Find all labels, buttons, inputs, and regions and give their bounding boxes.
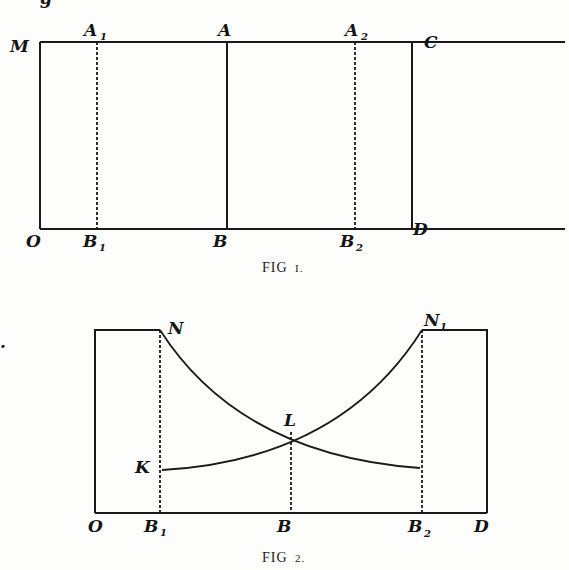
- label-b1-sub: 1: [99, 242, 106, 253]
- label-n1: N: [423, 310, 441, 330]
- label-a2: A: [343, 20, 358, 40]
- label-b1-2-sub: 1: [160, 527, 167, 538]
- label-b: B: [212, 231, 227, 251]
- label-c: C: [424, 32, 438, 52]
- figure-1-caption: FIG I.: [262, 260, 303, 275]
- top-text-fragment: g: [40, 0, 52, 8]
- label-d: D: [412, 219, 428, 239]
- figure-2: N N 1 L K O B 1 B B 2 D FIG 2.: [88, 310, 489, 565]
- label-b1: B: [82, 231, 97, 251]
- stray-mark: .: [0, 332, 6, 352]
- label-b2-2: B: [407, 516, 422, 536]
- curve-k-rising: [162, 330, 422, 470]
- label-d2: D: [473, 516, 489, 536]
- label-n1-sub: 1: [440, 321, 447, 332]
- label-a: A: [216, 20, 231, 40]
- label-b-2: B: [276, 516, 291, 536]
- right-box: [422, 330, 487, 513]
- label-b1-2: B: [143, 516, 158, 536]
- label-a2-sub: 2: [360, 31, 368, 42]
- figure-2-caption: FIG 2.: [262, 550, 305, 565]
- figure-1: M A 1 A A 2 C O B 1 B B 2 D FIG I.: [9, 20, 565, 275]
- caption-fig: FIG: [262, 260, 288, 275]
- label-a1-sub: 1: [100, 31, 107, 42]
- caption-fig: FIG: [262, 550, 288, 565]
- label-n: N: [167, 318, 185, 338]
- label-b2-sub: 2: [355, 242, 363, 253]
- left-box: [95, 330, 160, 513]
- caption-num: 2.: [295, 552, 305, 564]
- diagram-canvas: g M A 1 A A 2 C O B 1 B B 2 D FIG I. .: [0, 0, 569, 570]
- label-b2-2-sub: 2: [423, 528, 431, 539]
- label-b2: B: [339, 231, 354, 251]
- label-m: M: [9, 36, 30, 56]
- label-k: K: [134, 457, 151, 477]
- curve-n-falling: [160, 330, 420, 468]
- caption-num: I.: [295, 262, 303, 274]
- label-o2: O: [88, 516, 103, 536]
- label-o: O: [26, 231, 41, 251]
- label-a1: A: [82, 20, 97, 40]
- label-l: L: [283, 410, 296, 430]
